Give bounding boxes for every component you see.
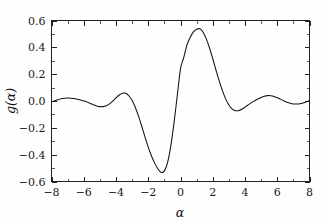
y-axis-title: g(α)	[3, 88, 18, 114]
y-tick-label: −0.4	[19, 149, 46, 162]
y-tick-label: 0.0	[28, 95, 46, 108]
x-tick-label: 8	[306, 186, 313, 199]
y-tick-label: 0.6	[28, 15, 46, 28]
x-tick-label: −6	[76, 186, 92, 199]
plot-frame	[52, 21, 310, 182]
y-axis-title-group: g(α)	[3, 88, 18, 114]
y-tick-label: −0.6	[19, 176, 46, 189]
x-axis-title: α	[176, 205, 185, 220]
x-tick-label: −8	[43, 186, 59, 199]
y-axis-minor-ticks	[52, 35, 310, 169]
chart-figure: −8−6−4−202468 −0.6−0.4−0.20.00.20.40.6 α…	[0, 0, 323, 224]
plot-canvas: −8−6−4−202468 −0.6−0.4−0.20.00.20.40.6 α…	[0, 0, 323, 224]
x-tick-label: 2	[209, 186, 216, 199]
x-tick-label: −2	[140, 186, 156, 199]
x-tick-label: 0	[177, 186, 184, 199]
y-axis-tick-labels: −0.6−0.4−0.20.00.20.40.6	[19, 15, 46, 189]
x-axis-minor-ticks	[69, 21, 294, 182]
y-tick-label: 0.2	[28, 68, 46, 81]
y-tick-label: −0.2	[19, 122, 46, 135]
x-tick-label: 4	[242, 186, 249, 199]
y-tick-label: 0.4	[28, 41, 46, 54]
x-axis-major-ticks	[53, 21, 311, 182]
x-tick-label: 6	[274, 186, 281, 199]
data-curve-g-alpha	[52, 29, 310, 173]
x-tick-label: −4	[108, 186, 124, 199]
y-axis-major-ticks	[52, 22, 310, 183]
x-axis-tick-labels: −8−6−4−202468	[43, 186, 313, 199]
